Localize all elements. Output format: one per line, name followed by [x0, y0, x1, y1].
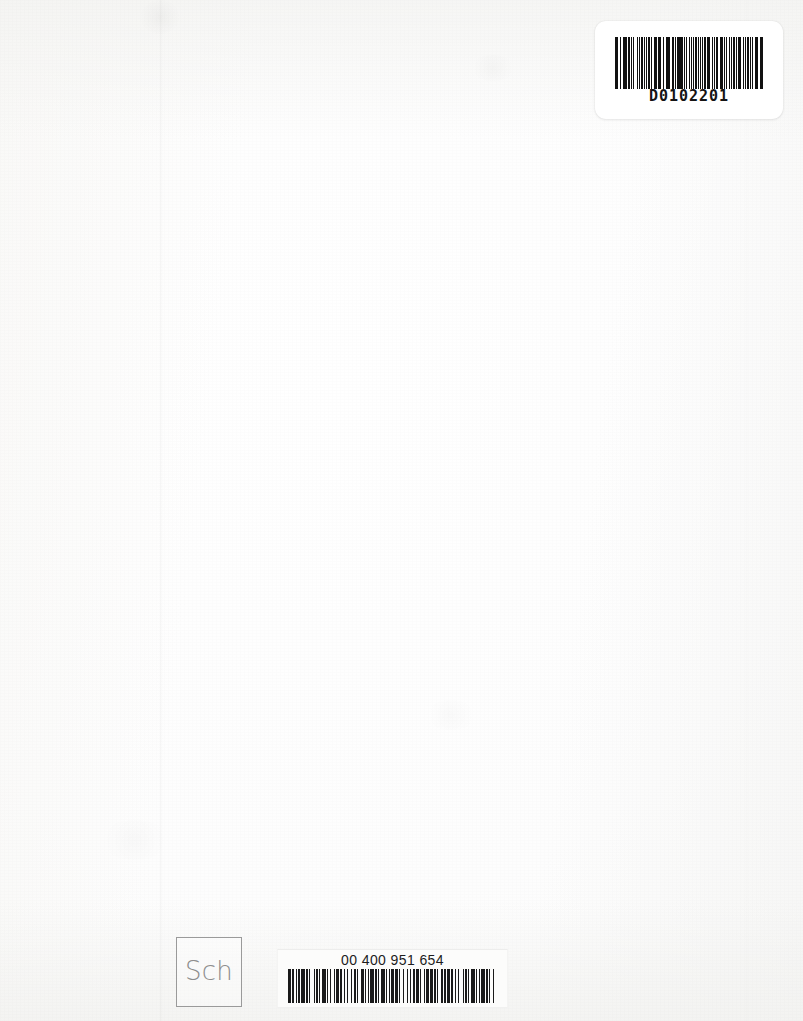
- barcode-bar: [736, 37, 737, 89]
- barcode-bar: [620, 37, 621, 89]
- barcode-bar: [426, 969, 429, 1003]
- barcode-bar: [714, 37, 716, 89]
- barcode-bar: [344, 969, 345, 1003]
- library-barcode-label: 00 400 951 654: [277, 949, 508, 1008]
- barcode-bar: [660, 37, 661, 89]
- barcode-bar: [709, 37, 710, 89]
- barcode-bar: [319, 969, 320, 1003]
- barcode-bar: [463, 969, 464, 1003]
- barcode-bar: [493, 969, 494, 1003]
- barcode-bar: [288, 969, 291, 1003]
- barcode-bar: [458, 969, 459, 1003]
- barcode-bar: [707, 37, 709, 89]
- barcode-bar: [476, 969, 477, 1003]
- barcode-bar: [667, 37, 669, 89]
- barcode-bar: [309, 969, 310, 1003]
- barcode-bar: [301, 969, 304, 1003]
- paper-smudge: [100, 820, 170, 860]
- paper-smudge: [425, 700, 477, 730]
- barcode-bar: [733, 37, 735, 89]
- paper-grain-texture: [0, 0, 803, 1021]
- barcode-bar: [455, 969, 456, 1003]
- barcode-bar: [351, 969, 352, 1003]
- barcode-bar: [399, 969, 400, 1003]
- barcode-bar: [468, 969, 469, 1003]
- barcode-bar: [444, 969, 446, 1003]
- barcode-bar: [330, 969, 331, 1003]
- barcode-bar: [407, 969, 408, 1003]
- barcode-bar: [481, 969, 484, 1003]
- barcode-bar: [378, 969, 379, 1003]
- barcode-bar: [334, 969, 335, 1003]
- edge-crease-line: [745, 0, 749, 1021]
- barcode-bar: [296, 969, 297, 1003]
- barcode-bar: [729, 37, 730, 89]
- barcode-bar: [686, 37, 687, 89]
- barcode-bar: [624, 37, 626, 89]
- barcode-bar: [756, 37, 758, 89]
- barcode-bar: [698, 37, 699, 89]
- barcode-bar: [637, 37, 638, 89]
- barcode-bar: [465, 969, 467, 1003]
- barcode-bar: [430, 969, 432, 1003]
- barcode-bar: [752, 37, 753, 89]
- paper-smudge: [140, 0, 180, 34]
- barcode-bar: [370, 969, 373, 1003]
- barcode-bar: [389, 969, 390, 1003]
- barcode-bar: [628, 37, 630, 89]
- barcode-bars-top: [615, 37, 763, 89]
- barcode-bar: [489, 969, 490, 1003]
- library-barcode-number: 00 400 951 654: [278, 953, 507, 967]
- barcode-bar: [615, 37, 617, 89]
- barcode-bar: [365, 969, 366, 1003]
- barcode-bar: [361, 969, 363, 1003]
- barcode-bar: [716, 37, 718, 89]
- barcode-bar: [327, 969, 328, 1003]
- sch-library-stamp: Sch: [176, 937, 242, 1007]
- barcode-bar: [641, 37, 643, 89]
- barcode-bar: [347, 969, 348, 1003]
- barcode-bar: [391, 969, 393, 1003]
- barcode-bar: [403, 969, 404, 1003]
- fold-crease-line: [159, 0, 163, 1021]
- barcode-bar: [761, 37, 763, 89]
- barcode-bar: [738, 37, 740, 89]
- barcode-bar: [658, 37, 660, 89]
- barcode-bar: [646, 37, 648, 89]
- barcode-bar: [354, 969, 356, 1003]
- barcode-bar: [648, 37, 650, 89]
- barcode-bar: [486, 969, 488, 1003]
- accession-barcode-number: D0102201: [595, 89, 783, 104]
- barcode-bars-bottom: [288, 969, 497, 1003]
- barcode-bar: [702, 37, 704, 89]
- barcode-bar: [704, 37, 706, 89]
- barcode-bar: [340, 969, 342, 1003]
- paper-smudge: [470, 55, 516, 81]
- barcode-bar: [434, 969, 436, 1003]
- barcode-bar: [437, 969, 438, 1003]
- barcode-bar: [479, 969, 480, 1003]
- barcode-bar: [695, 37, 697, 89]
- barcode-bar: [684, 37, 685, 89]
- scanned-page: D0102201 Sch 00 400 951 654: [0, 0, 803, 1021]
- accession-barcode-label: D0102201: [595, 21, 783, 119]
- barcode-bar: [471, 969, 474, 1003]
- barcode-bar: [316, 969, 318, 1003]
- barcode-bar: [336, 969, 339, 1003]
- sch-stamp-text: Sch: [177, 958, 241, 984]
- barcode-bar: [651, 37, 652, 89]
- barcode-bar: [447, 969, 450, 1003]
- barcode-bar: [617, 37, 618, 89]
- barcode-bar: [381, 969, 384, 1003]
- barcode-bar: [451, 969, 452, 1003]
- barcode-bar: [693, 37, 695, 89]
- barcode-bar: [292, 969, 293, 1003]
- barcode-bar: [357, 969, 358, 1003]
- barcode-bar: [655, 37, 657, 89]
- barcode-bar: [368, 969, 369, 1003]
- barcode-bar: [375, 969, 377, 1003]
- barcode-bar: [672, 37, 674, 89]
- barcode-bar: [724, 37, 725, 89]
- barcode-bar: [395, 969, 398, 1003]
- barcode-bar: [314, 969, 315, 1003]
